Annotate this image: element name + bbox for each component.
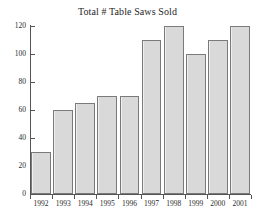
x-axis-tick xyxy=(118,195,119,199)
x-axis-tick xyxy=(96,195,97,199)
x-axis-tick xyxy=(185,195,186,199)
x-axis-tick-label: 2001 xyxy=(229,200,251,208)
y-axis-tick-label: 80 xyxy=(0,78,26,86)
bar xyxy=(142,40,162,194)
x-axis-tick xyxy=(141,195,142,199)
x-axis-tick-label: 1998 xyxy=(163,200,185,208)
x-axis-tick-label: 1999 xyxy=(185,200,207,208)
bar xyxy=(75,103,95,194)
x-axis-tick-label: 1993 xyxy=(52,200,74,208)
bar xyxy=(164,26,184,194)
y-axis-tick-label: 100 xyxy=(0,50,26,58)
x-axis-tick xyxy=(30,195,31,199)
x-axis-tick-label: 1995 xyxy=(96,200,118,208)
x-axis-tick xyxy=(251,195,252,199)
bar xyxy=(208,40,228,194)
x-axis-tick xyxy=(52,195,53,199)
x-axis-tick xyxy=(207,195,208,199)
x-axis-tick xyxy=(229,195,230,199)
y-axis-tick-label: 40 xyxy=(0,134,26,142)
y-axis-tick-label: 20 xyxy=(0,162,26,170)
bar xyxy=(230,26,250,194)
bar xyxy=(97,96,117,194)
chart-title: Total # Table Saws Sold xyxy=(0,6,255,17)
x-axis-tick-label: 1994 xyxy=(74,200,96,208)
x-axis-tick-label: 1992 xyxy=(30,200,52,208)
bar xyxy=(53,110,73,194)
x-axis-tick xyxy=(74,195,75,199)
y-axis-tick-label: 120 xyxy=(0,22,26,30)
y-axis-tick-label: 60 xyxy=(0,106,26,114)
bar-chart-figure: Total # Table Saws Sold 020406080100120 … xyxy=(0,0,255,214)
x-axis-tick xyxy=(163,195,164,199)
y-axis-tick-label: 0 xyxy=(0,190,26,198)
x-axis-tick-label: 2000 xyxy=(207,200,229,208)
y-axis-tick xyxy=(31,194,35,195)
x-axis-tick-label: 1997 xyxy=(141,200,163,208)
bar xyxy=(186,54,206,194)
bar xyxy=(31,152,51,194)
bar xyxy=(120,96,140,194)
bars-layer xyxy=(30,25,251,194)
x-axis-tick-label: 1996 xyxy=(118,200,140,208)
